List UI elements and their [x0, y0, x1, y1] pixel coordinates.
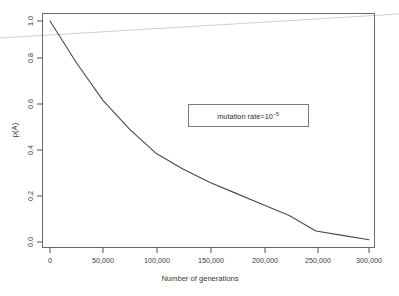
x-axis-ticks	[50, 248, 369, 254]
x-tick-label: 0	[48, 256, 52, 265]
data-curve-line	[50, 21, 369, 240]
x-tick-label: 250,000	[305, 256, 331, 265]
scan-artifact-line	[0, 14, 399, 38]
x-axis-title: Number of generations	[161, 274, 238, 283]
x-tick-label: 150,000	[198, 256, 224, 265]
y-axis-title: p(A)	[10, 122, 19, 137]
y-tick-label: 0.2	[26, 191, 35, 201]
x-tick-label: 50,000	[92, 256, 114, 265]
y-tick-label: 1.0	[26, 16, 35, 26]
y-tick-label: 0.4	[26, 145, 35, 155]
x-tick-label: 300,000	[356, 256, 382, 265]
y-tick-label: 0.8	[26, 53, 35, 63]
y-tick-label: 0.6	[26, 99, 35, 109]
annotation-label-prefix: mutation rate=10	[217, 112, 273, 121]
plot-frame	[43, 14, 375, 248]
x-tick-label: 100,000	[144, 256, 170, 265]
x-tick-labels: 0 50,000 100,000 150,000 200,000 250,000…	[48, 256, 382, 265]
y-tick-labels: 0.0 0.2 0.4 0.6 0.8 1.0	[26, 16, 35, 247]
chart-figure: 0.0 0.2 0.4 0.6 0.8 1.0 p(A) 0 50,000 10…	[0, 0, 399, 296]
x-tick-label: 200,000	[252, 256, 278, 265]
annotation-box: mutation rate=10−5	[189, 105, 309, 127]
annotation-label: mutation rate=10−5	[217, 111, 279, 121]
y-tick-label: 0.0	[26, 237, 35, 247]
chart-svg: 0.0 0.2 0.4 0.6 0.8 1.0 p(A) 0 50,000 10…	[0, 0, 399, 296]
y-axis-ticks	[37, 21, 43, 242]
annotation-label-exponent: −5	[273, 111, 279, 117]
